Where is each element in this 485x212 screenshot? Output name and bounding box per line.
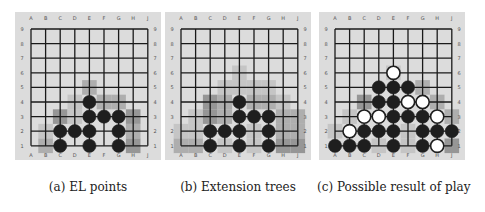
white-stone: [387, 66, 400, 79]
black-stone: [112, 110, 125, 123]
row-label: 5: [170, 84, 173, 90]
row-label: 9: [457, 26, 460, 32]
row-label: 6: [20, 70, 23, 76]
row-label: 3: [457, 114, 460, 120]
column-label: B: [348, 15, 352, 21]
row-label: 1: [20, 143, 23, 149]
row-label: 3: [324, 114, 327, 120]
row-label: 8: [170, 41, 173, 47]
column-label: E: [238, 15, 241, 21]
column-label: A: [179, 152, 183, 158]
row-label: 8: [20, 41, 23, 47]
row-label: 5: [457, 84, 460, 90]
board-svg: AABBCCDDEEFFGGHHJJ998877665544332211: [15, 12, 161, 160]
black-stone: [328, 139, 341, 152]
black-stone: [387, 110, 400, 123]
row-label: 9: [324, 26, 327, 32]
black-stone: [262, 110, 275, 123]
row-label: 7: [324, 55, 327, 61]
column-label: H: [435, 15, 439, 21]
black-stone: [54, 125, 67, 138]
row-label: 1: [324, 143, 327, 149]
row-label: 8: [153, 41, 156, 47]
column-label: G: [421, 15, 425, 21]
board-panel-b: AABBCCDDEEFFGGHHJJ998877665544332211: [165, 12, 311, 160]
column-label: B: [44, 152, 48, 158]
column-label: J: [146, 152, 148, 158]
row-label: 8: [457, 41, 460, 47]
row-label: 3: [170, 114, 173, 120]
row-label: 9: [153, 26, 156, 32]
black-stone: [83, 95, 96, 108]
black-stone: [83, 125, 96, 138]
white-stone: [431, 139, 444, 152]
row-label: 3: [153, 114, 156, 120]
row-label: 6: [457, 70, 460, 76]
row-label: 6: [153, 70, 156, 76]
black-stone: [387, 81, 400, 94]
column-label: E: [88, 152, 91, 158]
board-panel-c: AABBCCDDEEFFGGHHJJ998877665544332211: [319, 12, 465, 160]
black-stone: [233, 139, 246, 152]
row-label: 5: [153, 84, 156, 90]
column-label: A: [179, 15, 183, 21]
column-label: D: [377, 15, 381, 21]
column-label: D: [73, 15, 77, 21]
black-stone: [372, 125, 385, 138]
black-stone: [387, 125, 400, 138]
row-label: 6: [303, 70, 306, 76]
row-label: 2: [324, 128, 327, 134]
white-stone: [358, 110, 371, 123]
row-label: 4: [324, 99, 327, 105]
row-label: 2: [303, 128, 306, 134]
column-label: A: [29, 15, 33, 21]
row-label: 5: [324, 84, 327, 90]
column-label: E: [392, 152, 395, 158]
row-label: 7: [457, 55, 460, 61]
column-label: J: [450, 152, 452, 158]
column-label: H: [281, 152, 285, 158]
column-label: B: [194, 15, 198, 21]
row-label: 2: [153, 128, 156, 134]
column-label: C: [208, 152, 212, 158]
row-label: 3: [303, 114, 306, 120]
row-label: 5: [303, 84, 306, 90]
caption-a: (a) EL points: [13, 180, 163, 194]
black-stone: [68, 125, 81, 138]
column-label: H: [281, 15, 285, 21]
row-label: 8: [303, 41, 306, 47]
column-label: F: [253, 15, 256, 21]
black-stone: [204, 139, 217, 152]
black-stone: [416, 139, 429, 152]
black-stone: [401, 81, 414, 94]
column-label: C: [58, 15, 62, 21]
row-label: 6: [170, 70, 173, 76]
row-label: 9: [303, 26, 306, 32]
column-label: J: [296, 15, 298, 21]
caption-c: (c) Possible result of play: [317, 180, 467, 194]
black-stone: [97, 110, 110, 123]
column-label: E: [88, 15, 91, 21]
black-stone: [372, 95, 385, 108]
row-label: 4: [170, 99, 173, 105]
row-label: 9: [20, 26, 23, 32]
column-label: G: [421, 152, 425, 158]
black-stone: [387, 95, 400, 108]
black-stone: [358, 125, 371, 138]
row-label: 7: [153, 55, 156, 61]
row-label: 4: [153, 99, 156, 105]
column-label: H: [131, 15, 135, 21]
row-label: 1: [153, 143, 156, 149]
row-label: 6: [324, 70, 327, 76]
black-stone: [445, 125, 458, 138]
white-stone: [343, 125, 356, 138]
column-label: B: [44, 15, 48, 21]
black-stone: [387, 139, 400, 152]
row-label: 4: [457, 99, 460, 105]
column-label: B: [348, 152, 352, 158]
row-label: 7: [170, 55, 173, 61]
column-label: G: [267, 15, 271, 21]
black-stone: [83, 110, 96, 123]
column-label: B: [194, 152, 198, 158]
column-label: F: [103, 152, 106, 158]
